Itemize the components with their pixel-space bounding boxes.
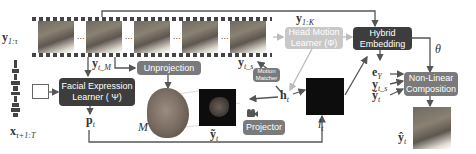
- ellipsis: ...: [77, 31, 85, 41]
- audio-input-label: xτ+1:T: [10, 124, 35, 140]
- pipeline-diagram: y1:τ xτ+1:T ... ... ... ... yt_M yt_s y1…: [0, 0, 476, 154]
- keyframes-label: y1:K: [296, 11, 314, 27]
- landmark-label: lt: [318, 117, 324, 133]
- ellipsis: ...: [173, 31, 181, 41]
- hybrid-embedding-module: HybridEmbedding: [353, 27, 412, 50]
- theta-label: θ: [435, 42, 441, 57]
- video-frame: [182, 21, 218, 53]
- projector-module: Projector: [243, 120, 285, 135]
- head-motion-label: ht: [280, 88, 289, 104]
- rendered-face-image: [199, 89, 236, 126]
- video-input-label: y1:τ: [2, 30, 18, 46]
- film-perforations-bottom: [32, 53, 272, 57]
- landmark-image: [306, 78, 344, 115]
- expression-param-label: pt: [86, 113, 95, 129]
- output-label: ŷt: [398, 130, 406, 146]
- unprojection-module: Unprojection: [137, 61, 201, 75]
- rendered-input-label: ỹt: [372, 88, 380, 104]
- rendered-face-label: ỹt: [210, 127, 218, 143]
- audio-waveform-icon: [9, 60, 23, 118]
- video-frame: [134, 21, 170, 53]
- camera-icon: [244, 104, 258, 113]
- video-frame: [86, 21, 122, 53]
- video-film-strip: ... ... ... ...: [32, 17, 272, 57]
- mesh-label: M: [138, 120, 148, 135]
- head-motion-learner-module: Head MotionLearner (Φ): [285, 27, 343, 49]
- facial-expression-learner-module: Facial ExpressionLearner ( Ψ): [59, 78, 135, 106]
- sample-frame-label: yt_s: [238, 55, 253, 71]
- motion-matcher-module: MotionMatcher: [253, 68, 280, 82]
- output-face-image: [413, 107, 451, 149]
- ellipsis: ...: [221, 31, 229, 41]
- audio-window-box: [32, 84, 49, 99]
- video-frame: [38, 21, 74, 53]
- ref-frame-label: yt_M: [92, 56, 111, 72]
- ellipsis: ...: [125, 31, 133, 41]
- 3d-face-mesh: [147, 88, 189, 138]
- video-frame-sample: [230, 21, 266, 53]
- nonlinear-composition-module: Non-LinearComposition: [404, 72, 458, 96]
